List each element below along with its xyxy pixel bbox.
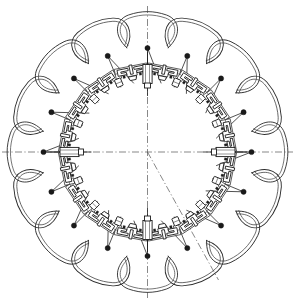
pivot-node bbox=[105, 245, 110, 250]
pivot-node bbox=[71, 223, 76, 228]
actuator-bottom bbox=[143, 208, 152, 252]
radial-assembly-diagram bbox=[0, 0, 295, 303]
pivot-node bbox=[71, 76, 76, 81]
pivot-node bbox=[185, 53, 190, 58]
actuator-top bbox=[143, 52, 152, 96]
petal-loop-linkage bbox=[232, 164, 289, 233]
pivot-node bbox=[218, 223, 223, 228]
pivot-node bbox=[49, 189, 54, 194]
knuckle-link bbox=[172, 216, 181, 226]
knuckle-link bbox=[73, 119, 83, 128]
pivot-node bbox=[249, 149, 254, 154]
petal-loop-linkage bbox=[6, 164, 63, 233]
pivot-node bbox=[241, 110, 246, 115]
petal-loop-linkage bbox=[66, 237, 135, 294]
actuator-left bbox=[48, 147, 92, 156]
petal-loop-linkage bbox=[160, 237, 229, 294]
knuckle-link bbox=[114, 216, 123, 226]
knuckle-link bbox=[114, 78, 123, 88]
pivot-node bbox=[145, 253, 150, 258]
knuckle-link bbox=[73, 176, 83, 185]
petal-loop-linkage bbox=[160, 11, 229, 68]
pivot-node bbox=[218, 76, 223, 81]
knuckle-link bbox=[212, 119, 222, 128]
pivot-node bbox=[105, 53, 110, 58]
petal-loop-linkage bbox=[66, 11, 135, 68]
pivot-node bbox=[185, 245, 190, 250]
actuator-right bbox=[204, 147, 248, 156]
pivot-node bbox=[145, 45, 150, 50]
pivot-node bbox=[241, 189, 246, 194]
knuckle-link bbox=[212, 176, 222, 185]
petal-loop-linkage bbox=[232, 71, 289, 140]
pivot-node bbox=[49, 110, 54, 115]
pivot-node bbox=[41, 149, 46, 154]
knuckle-link bbox=[172, 78, 181, 88]
petal-loop-linkage bbox=[6, 71, 63, 140]
technical-drawing-canvas bbox=[0, 0, 295, 303]
